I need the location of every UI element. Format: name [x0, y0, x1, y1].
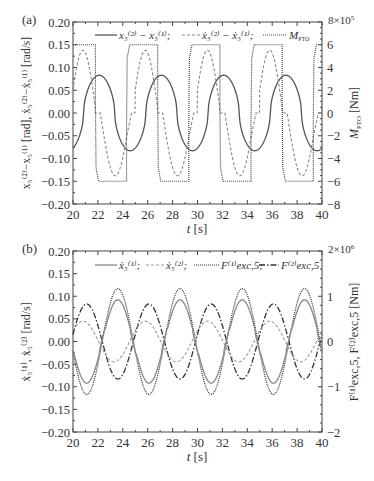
y-tick-label-left: −0.20: [41, 198, 70, 212]
x-axis-label-b: t [s]: [187, 449, 208, 464]
panel-b: (b) 20222426283032343638400.200.150.100.…: [19, 241, 361, 464]
x-tick-label: 34: [241, 207, 255, 222]
y-axis-left-label-a: x₅⁽²⁾−x₅⁽¹⁾ [rad], ẋ₅⁽²⁾−ẋ₅⁽¹⁾ [rad/s]: [20, 37, 33, 189]
x-tick-label: 38: [291, 207, 304, 222]
series-velocity-2: [73, 321, 322, 362]
x-tick-label: 34: [241, 435, 255, 450]
series-f-exc-1: [73, 289, 322, 395]
y-tick-label-left: 0.05: [48, 312, 70, 326]
x-tick-label: 28: [166, 435, 179, 450]
legend-label: F⁽¹⁾exc,5;: [220, 259, 263, 271]
legend-label: F⁽²⁾exc,5: [280, 259, 320, 271]
y-tick-label-left: −0.15: [41, 175, 70, 189]
x-tick-label: 32: [216, 435, 229, 450]
series-velocity-1: [73, 300, 322, 383]
legend-b: ẋ₅⁽¹⁾;ẋ₅⁽²⁾;F⁽¹⁾exc,5;F⁽²⁾exc,5: [95, 259, 320, 271]
data-lines-a: [73, 45, 322, 182]
y-tick-label-right: 0: [327, 107, 333, 121]
legend-label: MPTO: [288, 29, 310, 42]
x-tick-label: 28: [166, 207, 179, 222]
series-f-exc-2: [73, 304, 322, 379]
legend-label: x₅⁽²⁾ − x₅⁽¹⁾;: [118, 29, 170, 41]
y-tick-label-left: −0.05: [41, 129, 70, 143]
plot-area-b: [73, 251, 322, 432]
x-tick-label: 30: [191, 207, 204, 222]
y-tick-label-right: 0: [327, 335, 333, 349]
y-tick-label-right: 1: [327, 290, 333, 304]
y-tick-label-left: 0.10: [48, 290, 70, 304]
y-tick-label-left: −0.10: [41, 380, 70, 394]
x-tick-label: 30: [191, 435, 204, 450]
axis-ticks-b: 20222426283032343638400.200.150.100.050.…: [41, 245, 340, 451]
y-tick-label-left: 0.00: [48, 107, 70, 121]
panel-a: (a) 20222426283032343638400.200.150.100.…: [20, 12, 363, 236]
y-tick-label-left: −0.05: [41, 358, 70, 372]
x-tick-label: 36: [266, 435, 280, 450]
legend-label: ẋ₅⁽²⁾ − ẋ₅⁽¹⁾;: [201, 29, 253, 41]
y-axis-right-label-a: MPTO [Nm]: [347, 87, 363, 140]
x-tick-label: 26: [141, 435, 155, 450]
y-tick-label-left: 0.20: [48, 245, 70, 259]
y-tick-label-right: 2: [327, 84, 333, 98]
y-tick-label-right: 6: [327, 38, 333, 52]
x-tick-label: 36: [266, 207, 280, 222]
y-tick-label-right: −4: [327, 152, 341, 166]
y-tick-label-right: −2: [327, 426, 340, 440]
y-tick-label-left: −0.10: [41, 152, 70, 166]
figure: (a) 20222426283032343638400.200.150.100.…: [0, 0, 374, 481]
y-tick-label-left: 0.05: [48, 84, 70, 98]
y-tick-label-left: −0.20: [41, 426, 70, 440]
x-tick-label: 24: [116, 207, 130, 222]
panel-a-label: (a): [22, 12, 36, 27]
x-tick-label: 22: [91, 207, 104, 222]
y-tick-label-left: 0.00: [48, 335, 70, 349]
y-tick-label-right: −6: [327, 175, 340, 189]
y-tick-label-right: −1: [327, 380, 340, 394]
data-lines-b: [73, 289, 322, 395]
series-relative-velocity: [73, 50, 322, 176]
y-tick-label-right: −8: [327, 198, 340, 212]
y-tick-label-right: −2: [327, 129, 340, 143]
y-tick-label-left: 0.20: [48, 16, 70, 30]
x-tick-label: 22: [91, 435, 104, 450]
y-axis-right-label-b: F⁽¹⁾exc,5, F⁽²⁾exc,5 [Nm]: [347, 283, 361, 402]
legend-a: x₅⁽²⁾ − x₅⁽¹⁾;ẋ₅⁽²⁾ − ẋ₅⁽¹⁾;MPTO: [95, 29, 310, 42]
y-tick-label-left: 0.15: [48, 38, 70, 52]
right-axis-multiplier-a: 8×105: [328, 14, 355, 26]
x-tick-label: 32: [216, 207, 229, 222]
y-tick-label-left: −0.15: [41, 403, 70, 417]
legend-label: ẋ₅⁽²⁾;: [165, 259, 187, 271]
y-tick-label-left: 0.15: [48, 267, 70, 281]
right-axis-multiplier-b: 2×106: [328, 243, 355, 255]
y-tick-label-right: 4: [327, 61, 334, 75]
y-axis-left-label-b: ẋ₅⁽¹⁾, ẋ₅⁽²⁾ [rad/s]: [19, 302, 33, 382]
x-tick-label: 38: [291, 435, 304, 450]
x-axis-label-a: t [s]: [187, 221, 208, 236]
legend-label: ẋ₅⁽¹⁾;: [118, 259, 140, 271]
x-tick-label: 26: [141, 207, 155, 222]
x-tick-label: 24: [116, 435, 130, 450]
y-tick-label-left: 0.10: [48, 61, 70, 75]
axis-ticks-a: 20222426283032343638400.200.150.100.050.…: [41, 16, 341, 223]
panel-b-label: (b): [22, 241, 37, 256]
